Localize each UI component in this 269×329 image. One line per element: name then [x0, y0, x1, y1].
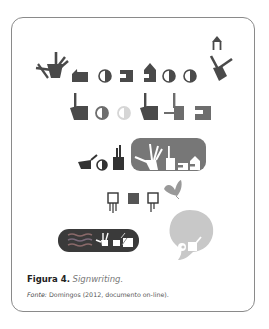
square-hook-icon	[72, 69, 88, 82]
speech-bubble-icon	[169, 210, 213, 260]
bracket-square-icon	[120, 70, 133, 82]
row-5	[58, 210, 213, 260]
raised-hand-icon	[113, 145, 124, 170]
cup-hand-icon	[78, 155, 97, 169]
half-circle-icon	[99, 70, 111, 82]
highlighted-word-panel	[131, 138, 206, 171]
row-4	[108, 180, 182, 213]
arrow-up-icon	[212, 36, 222, 50]
source-text: Domingos (2012, documento on-line).	[49, 291, 169, 298]
figure-title: Signwriting.	[73, 274, 124, 284]
source-label: Fonte:	[27, 291, 47, 298]
row-1	[36, 36, 232, 82]
half-circle-icon	[184, 70, 196, 82]
pointing-hand-icon	[70, 93, 88, 120]
figure-caption: Figura 4. Signwriting.	[27, 274, 123, 284]
pointing-hand-icon	[140, 93, 158, 120]
half-circle-icon	[96, 107, 108, 119]
solid-square-icon	[128, 193, 139, 204]
half-circle-icon	[163, 70, 175, 82]
figure-label: Figura 4.	[27, 274, 70, 284]
square-legs-icon	[148, 193, 158, 212]
wave-panel	[58, 229, 139, 252]
bracket-square-icon	[195, 106, 211, 120]
faint-circle-icon	[118, 107, 130, 119]
square-legs-icon	[108, 193, 118, 213]
row-3	[78, 138, 206, 171]
figure-source: Fonte: Domingos (2012, documento on-line…	[27, 291, 169, 298]
row-2	[70, 93, 211, 120]
hand-with-arrow-icon	[211, 56, 232, 81]
dash-square-icon	[164, 93, 184, 120]
house-square-icon	[144, 63, 156, 82]
half-circle-icon	[97, 160, 107, 170]
butterfly-icon	[164, 180, 182, 199]
hand-spread-icon	[36, 52, 68, 78]
